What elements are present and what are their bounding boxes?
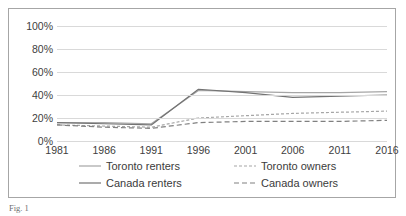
figure-caption: Fig. 1	[9, 203, 399, 214]
legend-line-icon-toronto-owners	[234, 162, 256, 170]
chart-frame: 0%20%40%60%80%100% 198119861991199620012…	[8, 8, 396, 198]
legend-item-canada-owners[interactable]: Canada owners	[234, 177, 338, 189]
x-axis-labels: 19811986199119962001200620112016	[57, 143, 387, 159]
y-axis-tick-label: 100%	[11, 21, 53, 31]
figure-container: 0%20%40%60%80%100% 198119861991199620012…	[0, 0, 406, 216]
x-axis-tick-label: 2011	[318, 143, 362, 157]
legend-item-canada-renters[interactable]: Canada renters	[79, 177, 182, 189]
gridline	[57, 95, 387, 96]
y-axis-tick-label: 20%	[11, 113, 53, 123]
y-axis-labels: 0%20%40%60%80%100%	[9, 26, 53, 141]
gridline	[57, 72, 387, 73]
legend-label-toronto-owners: Toronto owners	[261, 160, 336, 172]
series-lines	[57, 26, 387, 141]
y-axis-tick-label: 80%	[11, 44, 53, 54]
chart-legend: Toronto renters Canada renters Toronto o…	[57, 159, 387, 195]
gridline	[57, 118, 387, 119]
x-axis-tick-label: 1981	[35, 143, 79, 157]
legend-item-toronto-renters[interactable]: Toronto renters	[79, 160, 180, 172]
legend-label-canada-renters: Canada renters	[106, 177, 182, 189]
y-axis-tick-label: 40%	[11, 90, 53, 100]
x-axis-tick-label: 1991	[129, 143, 173, 157]
gridline	[57, 141, 387, 142]
plot-area	[57, 26, 387, 141]
x-axis-tick-label: 2016	[365, 143, 406, 157]
legend-line-icon-toronto-renters	[79, 162, 101, 170]
legend-line-icon-canada-renters	[79, 179, 101, 187]
x-axis-tick-label: 1986	[82, 143, 126, 157]
gridline	[57, 26, 387, 27]
legend-line-icon-canada-owners	[234, 179, 256, 187]
series-line	[57, 111, 387, 127]
legend-item-toronto-owners[interactable]: Toronto owners	[234, 160, 336, 172]
gridline	[57, 49, 387, 50]
legend-label-toronto-renters: Toronto renters	[106, 160, 180, 172]
y-axis-tick-label: 60%	[11, 67, 53, 77]
x-axis-tick-label: 2001	[224, 143, 268, 157]
x-axis-tick-label: 1996	[176, 143, 220, 157]
legend-label-canada-owners: Canada owners	[261, 177, 338, 189]
x-axis-tick-label: 2006	[271, 143, 315, 157]
